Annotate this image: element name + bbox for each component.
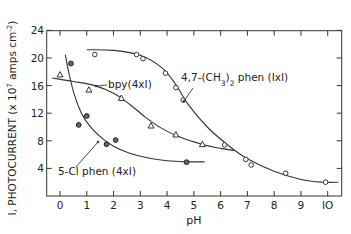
bpy-leader-dot [95,85,98,88]
open-triangle-marker [118,95,124,100]
open-circle-marker [141,56,146,61]
open-circle-marker [134,52,139,57]
open-circle-marker [163,71,168,76]
open-circle-marker [174,85,179,90]
y-tick-label: 24 [31,24,45,36]
open-circle-marker [222,143,227,148]
y-axis-label: I, PHOTOCURRENT (x 107 amps cm-2) [6,21,18,216]
x-axis-ticks: 0123456789IO [57,31,334,211]
x-tick-label: 0 [57,199,64,211]
filled-circle-marker [84,114,89,119]
open-circle-marker [93,52,98,57]
x-tick-label: 6 [217,199,224,211]
filled-circle-marker [104,142,109,147]
x-tick-label: 7 [244,199,251,211]
open-triangle-marker [86,87,92,92]
open-circle-marker [249,163,254,168]
x-tick-label: 5 [191,199,198,211]
clphen-leader-dot [97,141,100,144]
filled-circle-marker [113,138,118,143]
x-tick-label: 4 [164,199,171,211]
dimethylphen-leader-line [184,88,193,101]
open-triangle-marker [57,72,63,77]
y-tick-label: 4 [37,162,44,174]
x-axis-label: pH [186,214,201,227]
y-tick-label: 8 [37,135,44,147]
y-axis-ticks: 4812162024 [31,24,342,174]
dimethylphen-series-label: 4,7-(CH3)2 phen (IxI) [181,71,288,88]
fit-curve [87,50,339,183]
open-circle-marker [283,171,288,176]
open-circle-marker [243,157,248,162]
open-circle-marker [323,180,328,185]
filled-circle-marker [69,61,74,66]
x-tick-label: 1 [83,199,90,211]
x-tick-label: 9 [298,199,305,211]
filled-circle-marker [184,160,189,165]
y-tick-label: 20 [31,52,44,64]
x-tick-label: IO [322,199,333,211]
bpy-leader-line [96,85,107,86]
filled-circle-marker [76,123,81,128]
x-tick-label: 2 [110,199,117,211]
dimethylphen-leader-dot [183,100,186,103]
y-tick-label: 16 [31,80,45,92]
clphen-series-label: 5-Cl phen (4xI) [58,165,136,177]
photocurrent-ph-chart: 0123456789IO 4812162024 pH I, PHOTOCURRE… [0,0,351,234]
y-tick-label: 12 [31,107,44,119]
x-tick-label: 8 [271,199,278,211]
x-tick-label: 3 [137,199,144,211]
fit-curves [52,50,338,183]
clphen-leader-line [76,142,98,167]
bpy-series-label: bpy(4xI) [108,78,152,90]
